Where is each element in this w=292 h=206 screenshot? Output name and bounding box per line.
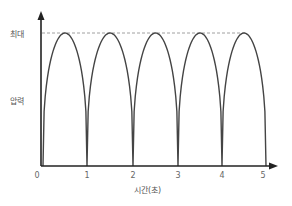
x-tick-4: 4 <box>219 171 224 180</box>
y-max-label: 최대 <box>10 28 24 39</box>
y-axis-arrow-icon <box>38 11 45 20</box>
x-axis-arrow-icon <box>269 163 278 170</box>
y-axis-label: 압력 <box>10 95 24 106</box>
x-tick-0: 0 <box>34 171 39 180</box>
x-tick-3: 3 <box>175 171 180 180</box>
x-tick-2: 2 <box>130 171 135 180</box>
x-axis-label: 시간(초) <box>134 184 161 195</box>
x-tick-5: 5 <box>260 171 265 180</box>
x-tick-1: 1 <box>84 171 89 180</box>
pressure-curve <box>43 33 266 166</box>
chart-canvas <box>0 0 292 206</box>
